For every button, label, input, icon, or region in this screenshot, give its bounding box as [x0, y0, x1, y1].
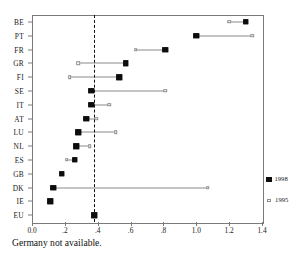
legend-item-1998: 1998: [266, 176, 288, 183]
y-axis-tick-ie: [28, 201, 33, 202]
y-axis-tick-dk: [28, 187, 33, 188]
y-axis-label-at: AT: [14, 114, 24, 123]
plot-area: [32, 15, 264, 224]
y-axis-label-nl: NL: [14, 142, 24, 151]
y-axis-label-dk: DK: [13, 183, 24, 192]
y-axis-tick-gb: [28, 173, 33, 174]
y-axis-label-pt: PT: [15, 31, 24, 40]
y-axis-tick-at: [28, 118, 33, 119]
y-axis-tick-eu: [28, 215, 33, 216]
y-axis-tick-es: [28, 159, 33, 160]
y-axis-label-ie: IE: [16, 197, 24, 206]
y-axis-label-gr: GR: [13, 59, 24, 68]
y-axis-label-be: BE: [14, 17, 24, 26]
legend-item-1995: 1995: [266, 197, 288, 204]
legend-label-1995: 1995: [275, 197, 288, 204]
chart-figure: BEPTFRGRFISEITATLUNLESGBDKIEEU 0.0.2.4.6…: [0, 0, 301, 257]
y-axis-tick-fi: [28, 77, 33, 78]
y-axis-label-fr: FR: [14, 45, 24, 54]
reference-line: [94, 15, 95, 222]
y-axis-label-lu: LU: [14, 128, 24, 137]
y-axis-tick-fr: [28, 49, 33, 50]
y-axis-tick-lu: [28, 132, 33, 133]
y-axis-label-gb: GB: [13, 169, 24, 178]
open-square-icon: [267, 199, 271, 203]
y-axis-label-eu: EU: [14, 211, 24, 220]
y-axis-tick-gr: [28, 63, 33, 64]
y-axis-label-se: SE: [15, 86, 24, 95]
x-axis-tick-label-5: 1.0: [192, 226, 201, 235]
x-axis-tick-label-2: .4: [95, 226, 101, 235]
x-axis-tick-label-0: 0.0: [27, 226, 36, 235]
x-axis-tick-label-4: .8: [161, 226, 167, 235]
y-axis-label-fi: FI: [17, 73, 24, 82]
y-axis-tick-se: [28, 90, 33, 91]
x-axis-tick-label-3: .6: [128, 226, 134, 235]
filled-square-icon: [266, 177, 272, 183]
x-axis-tick-label-1: .2: [62, 226, 68, 235]
legend-label-1998: 1998: [275, 176, 288, 183]
y-axis-tick-it: [28, 104, 33, 105]
y-axis-category-labels: BEPTFRGRFISEITATLUNLESGBDKIEEU: [0, 15, 30, 222]
y-axis-tick-nl: [28, 146, 33, 147]
x-axis-tick-label-6: 1.2: [225, 226, 234, 235]
y-axis-tick-be: [28, 21, 33, 22]
y-axis-label-it: IT: [16, 100, 24, 109]
x-axis-tick-label-7: 1.4: [257, 226, 266, 235]
y-axis-tick-pt: [28, 35, 33, 36]
chart-caption: Germany not available.: [12, 237, 102, 248]
y-axis-label-es: ES: [15, 155, 24, 164]
